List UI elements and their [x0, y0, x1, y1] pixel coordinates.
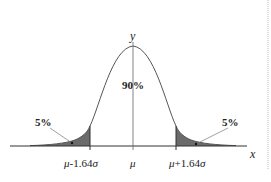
left-leader-line	[50, 128, 72, 143]
tick-label-left: μ-1.64σ	[63, 157, 98, 169]
tick-label-center: μ	[129, 157, 136, 169]
right-leader-line	[196, 128, 228, 144]
center-percentage: 90%	[122, 79, 144, 91]
right-tail-percentage: 5%	[222, 116, 239, 128]
left-tail-percentage: 5%	[35, 116, 52, 128]
x-axis-label: x	[249, 147, 256, 161]
tick-label-right: μ+1.64σ	[168, 157, 206, 169]
y-axis-label: y	[129, 29, 136, 43]
normal-distribution-chart: y x 90% 5% 5% μ-1.64σ μ μ+1.64σ	[0, 0, 271, 182]
